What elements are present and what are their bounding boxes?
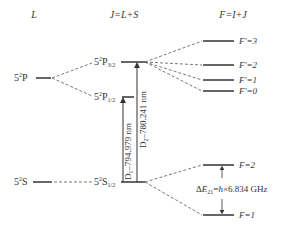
svg-text:52P: 52P: [14, 72, 28, 83]
svg-text:F'=3: F'=3: [238, 36, 257, 46]
level-f1-ground: F=1: [203, 210, 255, 220]
d1-transition: D1–794.979 nm: [123, 100, 134, 182]
d2-transition: D2–780.241 nm: [137, 65, 149, 182]
level-5p: 52P: [14, 72, 51, 83]
energy-level-diagram: L J=L+S F=I+J 52P 52P3/2 52P1/2 52S 52S1…: [0, 0, 283, 235]
level-f2-ground: F=2: [203, 160, 256, 170]
header-l: L: [30, 9, 37, 20]
svg-text:ΔE21=h×6.834 GHz: ΔE21=h×6.834 GHz: [196, 184, 267, 195]
header-f: F=I+J: [218, 9, 247, 20]
svg-text:F=1: F=1: [238, 210, 255, 220]
svg-text:52P1/2: 52P1/2: [94, 91, 115, 103]
svg-text:52S1/2: 52S1/2: [94, 176, 115, 188]
level-5p12: 52P1/2: [94, 91, 134, 103]
svg-text:F=2: F=2: [238, 160, 256, 170]
header-j: J=L+S: [110, 9, 139, 20]
level-f0-excited: F'=0: [203, 86, 257, 96]
svg-text:F'=0: F'=0: [238, 86, 257, 96]
svg-text:F'=2: F'=2: [238, 60, 257, 70]
level-f1-excited: F'=1: [203, 75, 257, 85]
level-5s: 52S: [14, 176, 52, 187]
svg-text:52S: 52S: [14, 176, 28, 187]
level-f3-excited: F'=3: [203, 36, 257, 46]
fine-structure-connectors: [52, 63, 92, 182]
level-f2-excited: F'=2: [203, 60, 257, 70]
svg-text:D1–794.979 nm: D1–794.979 nm: [123, 123, 134, 180]
hyperfine-connectors: [145, 41, 202, 215]
svg-text:D2–780.241 nm: D2–780.241 nm: [138, 91, 149, 148]
svg-text:52P3/2: 52P3/2: [94, 56, 115, 68]
ground-splitting: ΔE21=h×6.834 GHz: [196, 168, 267, 212]
svg-text:F'=1: F'=1: [238, 75, 257, 85]
